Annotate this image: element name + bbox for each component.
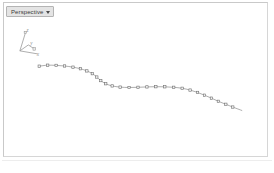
chevron-down-icon: [46, 11, 50, 14]
curve-vertex-2[interactable]: [55, 64, 57, 66]
curve-vertex-10[interactable]: [105, 83, 107, 85]
curve-vertex-22[interactable]: [203, 94, 205, 96]
caption-divider: [2, 160, 272, 161]
curve-vertex-8[interactable]: [96, 76, 98, 78]
curve-vertex-26[interactable]: [232, 106, 234, 108]
curve-vertex-24[interactable]: [217, 100, 219, 102]
axis-gizmo-y-cap: [33, 48, 36, 51]
curve-vertex-15[interactable]: [146, 86, 148, 88]
curve-vertex-16[interactable]: [155, 86, 157, 88]
curve-vertex-21[interactable]: [196, 91, 198, 93]
caption-strip: [0, 160, 274, 173]
axis-gizmo: z y x: [20, 27, 40, 57]
curve-vertex-0[interactable]: [38, 65, 40, 67]
profile-curve-group[interactable]: [38, 64, 242, 111]
view-label-text: Perspective: [11, 8, 43, 16]
curve-vertex-7[interactable]: [91, 72, 93, 74]
axis-label-y: y: [29, 40, 33, 46]
curve-vertex-14[interactable]: [137, 86, 139, 88]
curve-vertex-9[interactable]: [100, 79, 102, 81]
axis-label-z: z: [25, 27, 28, 33]
axis-gizmo-z-arm: [20, 33, 25, 51]
profile-curve-vertices[interactable]: [38, 64, 234, 108]
curve-vertex-5[interactable]: [79, 68, 81, 70]
curve-vertex-12[interactable]: [119, 86, 121, 88]
curve-vertex-25[interactable]: [225, 103, 227, 105]
curve-vertex-4[interactable]: [72, 66, 74, 68]
axis-gizmo-x-arm: [20, 51, 37, 54]
axis-label-x: x: [36, 51, 40, 57]
curve-vertex-18[interactable]: [173, 86, 175, 88]
curve-vertex-13[interactable]: [128, 86, 130, 88]
curve-vertex-3[interactable]: [63, 65, 65, 67]
3d-viewport[interactable]: Perspective z y x: [3, 2, 268, 157]
curve-vertex-6[interactable]: [86, 70, 88, 72]
curve-vertex-1[interactable]: [46, 64, 48, 66]
curve-vertex-23[interactable]: [210, 97, 212, 99]
curve-vertex-11[interactable]: [111, 85, 113, 87]
curve-vertex-20[interactable]: [189, 89, 191, 91]
curve-vertex-17[interactable]: [164, 86, 166, 88]
app-root: Perspective z y x: [0, 0, 274, 173]
profile-curve-line[interactable]: [39, 65, 242, 110]
view-label-dropdown[interactable]: Perspective: [6, 6, 54, 17]
viewport-scene: z y x: [4, 3, 267, 156]
curve-vertex-19[interactable]: [181, 87, 183, 89]
